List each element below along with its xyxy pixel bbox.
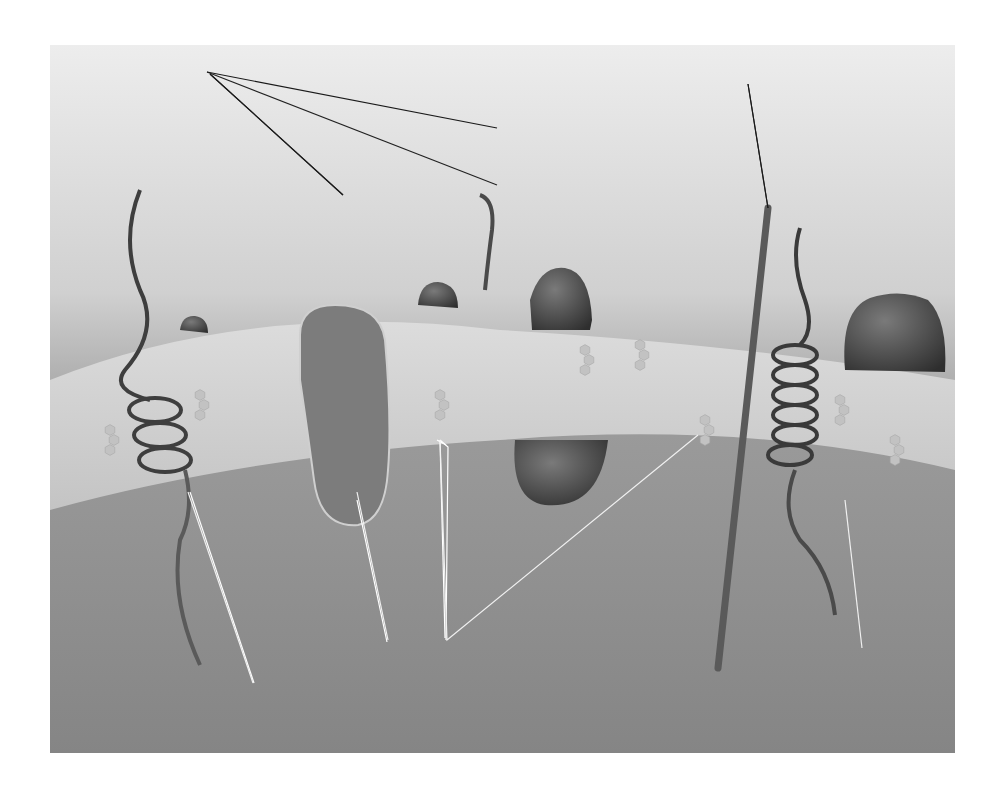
leader-overlay [0, 0, 998, 791]
